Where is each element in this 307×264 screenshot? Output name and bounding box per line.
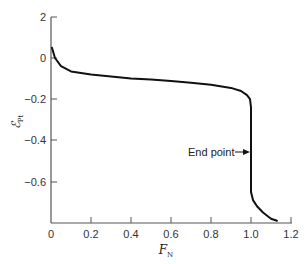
x-tick-label: 0.2: [83, 228, 98, 240]
y-tick-label: −0.6: [24, 176, 46, 188]
y-tick-label: −0.4: [24, 134, 46, 146]
svg-text:ℰPt: ℰPt: [9, 115, 25, 130]
y-tick-label: −0.2: [24, 93, 46, 105]
x-tick-label: 0.8: [203, 228, 218, 240]
y-axis-title: ℰPt: [9, 115, 25, 130]
x-tick-label: 0.4: [123, 228, 138, 240]
svg-text:FN: FN: [158, 243, 173, 259]
x-ticks: 00.20.40.60.81.01.2: [48, 217, 299, 240]
data-line: [52, 48, 277, 221]
x-tick-label: 1.2: [283, 228, 298, 240]
x-tick-label: 0: [48, 228, 54, 240]
y-tick-label: 0: [40, 52, 46, 64]
y-ticks: 20−0.2−0.4−0.6: [24, 11, 57, 188]
x-axis-title: FN: [158, 243, 173, 259]
chart: 20−0.2−0.4−0.6 00.20.40.60.81.01.2 End p…: [0, 0, 307, 264]
x-tick-label: 0.6: [163, 228, 178, 240]
y-tick-label: 2: [40, 11, 46, 23]
arrow-icon: [235, 149, 250, 155]
x-tick-label: 1.0: [243, 228, 258, 240]
annotation-end-point: End point: [188, 146, 234, 158]
